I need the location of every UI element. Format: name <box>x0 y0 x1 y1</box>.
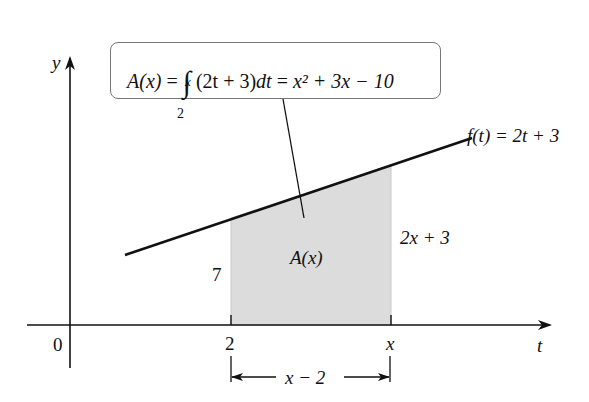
right-height-label: 2x + 3 <box>400 228 450 247</box>
integrand: (2t + 3) <box>196 70 256 92</box>
width-label: x − 2 <box>285 368 325 387</box>
integral-lower-limit: 2 <box>177 106 184 122</box>
formula-callout-box: A(x) = ∫ x 2 (2t + 3)dt = x² + 3x − 10 <box>110 42 441 99</box>
formula-lhs: A(x) <box>127 70 161 92</box>
formula-equals-1: = <box>166 70 177 92</box>
origin-label: 0 <box>53 335 63 354</box>
area-formula: A(x) = ∫ x 2 (2t + 3)dt = x² + 3x − 10 <box>127 61 394 95</box>
tick-label-x: x <box>386 334 394 353</box>
left-height-label: 7 <box>212 265 222 284</box>
differential: dt <box>256 70 272 92</box>
integral-upper-limit: x <box>185 74 191 90</box>
tick-label-2: 2 <box>225 334 235 353</box>
formula-equals-2: = <box>277 70 288 92</box>
formula-result: x² + 3x − 10 <box>293 70 394 92</box>
y-axis-label: y <box>52 53 60 72</box>
function-label: f(t) = 2t + 3 <box>467 126 559 145</box>
region-label: A(x) <box>290 248 323 267</box>
t-axis-label: t <box>537 336 542 355</box>
shaded-area-region <box>231 165 391 325</box>
